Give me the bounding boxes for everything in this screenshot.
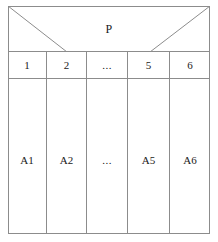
value-cell-a2: A2	[47, 79, 87, 234]
pointer-band: P	[8, 6, 210, 52]
pointer-array-diagram: P 1 2 ... 5 6 A1 A2 ... A5 A6	[0, 0, 218, 242]
pointer-label: P	[8, 6, 210, 52]
value-cell-a6: A6	[170, 79, 210, 234]
value-row: A1 A2 ... A5 A6	[8, 79, 210, 234]
index-cell-ellipsis: ...	[87, 52, 128, 78]
index-cell-6: 6	[170, 52, 210, 78]
index-row: 1 2 ... 5 6	[8, 52, 210, 79]
index-cell-1: 1	[8, 52, 47, 78]
value-cell-ellipsis: ...	[87, 79, 128, 234]
value-cell-a1: A1	[8, 79, 47, 234]
index-cell-5: 5	[128, 52, 170, 78]
value-cell-a5: A5	[128, 79, 170, 234]
index-cell-2: 2	[47, 52, 87, 78]
